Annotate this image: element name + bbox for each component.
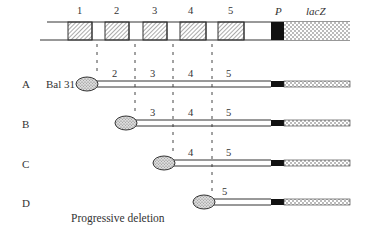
row-label-d: D [22,197,30,209]
lacz-block [284,22,350,40]
row-label-b: B [22,118,29,130]
enzyme-label: Bal 31 [46,79,75,90]
segment-label-2: 2 [114,6,119,16]
segment-label-3: 3 [152,6,157,16]
promoter-label: P [275,6,282,17]
row-c-num-4: 4 [188,148,193,158]
bal31-blob-a [76,77,98,91]
row-d [193,195,350,209]
bal31-blob-c [153,156,175,170]
row-b [115,116,350,130]
segment-4 [180,22,206,40]
row-b-num-4: 4 [188,108,193,118]
promoter-block [271,22,284,40]
row-a-num-2: 2 [112,69,117,79]
segment-label-4: 4 [188,6,193,16]
segment-label-5: 5 [228,6,233,16]
bal31-blob-b [115,116,137,130]
row-b-num-5: 5 [226,108,231,118]
deletion-diagram [0,0,368,238]
row-c-num-5: 5 [226,148,231,158]
row-a-num-4: 4 [188,69,193,79]
bal31-blob-d [193,195,215,209]
segment-1 [68,22,92,40]
row-c [153,156,350,170]
dashed-guides [97,44,212,194]
segment-5 [218,22,244,40]
segment-label-1: 1 [77,6,82,16]
lacz-label: lacZ [306,6,326,17]
row-d-num-5: 5 [222,187,227,197]
segment-2 [105,22,129,40]
row-a-num-3: 3 [150,69,155,79]
caption: Progressive deletion [71,213,165,224]
segment-3 [143,22,167,40]
top-construct [40,22,350,40]
row-b-num-3: 3 [150,108,155,118]
row-label-a: A [22,78,30,90]
row-a-num-5: 5 [226,69,231,79]
row-a [76,77,350,91]
row-label-c: C [22,158,29,170]
